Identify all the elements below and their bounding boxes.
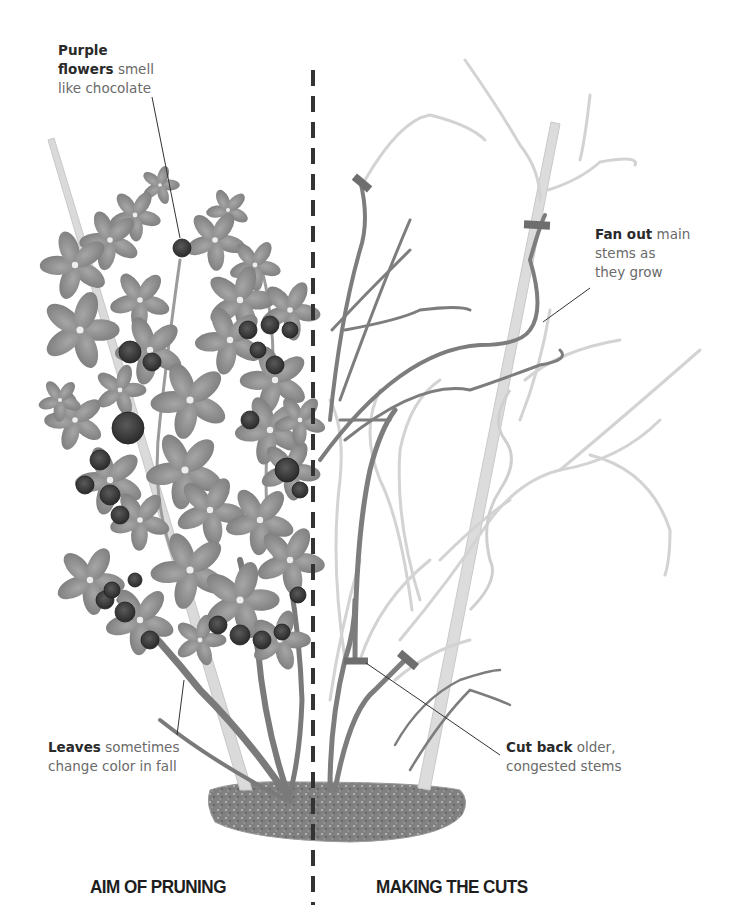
leaf-center (267, 427, 273, 433)
flower (141, 631, 159, 649)
cut-mark (524, 220, 550, 229)
cut-marks (344, 174, 550, 671)
leaf-center (287, 557, 293, 563)
leaf-center (76, 326, 83, 333)
leaf-center (137, 517, 143, 523)
leaf-center (147, 347, 153, 353)
cut-mark (344, 658, 368, 665)
flower (230, 625, 250, 645)
callout-cut-back: Cut back older, congested stems (506, 738, 621, 776)
callout-flowers-bold-2: flowers (58, 61, 114, 77)
callout-cut-back-bold: Cut back (506, 739, 572, 755)
flower (292, 482, 308, 498)
callout-fan-out-text-3: they grow (595, 264, 663, 280)
leaf-center (133, 213, 138, 218)
flower (76, 476, 94, 494)
flower (261, 316, 279, 334)
callout-fan-out-text-1: main (652, 226, 690, 242)
callout-flowers-text-2: smell (114, 61, 154, 77)
leaf-center (137, 617, 143, 623)
callout-fan-out: Fan out main stems as they grow (595, 225, 690, 282)
leaf-center (186, 566, 193, 573)
leaf-center (272, 377, 278, 383)
leaf-center (257, 517, 263, 523)
callout-leaves-text-1: sometimes (101, 739, 180, 755)
flower (266, 356, 284, 374)
leaf-center (58, 398, 62, 402)
callout-fan-out-bold: Fan out (595, 226, 652, 242)
leaf-center (87, 577, 93, 583)
pruning-illustration (0, 0, 738, 924)
leaf-center (253, 263, 258, 268)
flower (241, 411, 259, 429)
flower (100, 485, 120, 505)
flower (104, 582, 120, 598)
leaf-center (198, 638, 203, 643)
flower (290, 587, 306, 603)
leader-leaves (177, 680, 184, 735)
leaf-center (237, 297, 243, 303)
section-title-aim-of-pruning: AIM OF PRUNING (90, 876, 226, 898)
flower (128, 573, 142, 587)
leaf-center (298, 418, 303, 423)
leaf-center (72, 262, 78, 268)
callout-fan-out-text-2: stems as (595, 245, 655, 261)
flower (253, 631, 271, 649)
callout-flowers-text-3: like chocolate (58, 80, 151, 96)
leaf-center (118, 388, 123, 393)
new-stems (330, 60, 700, 700)
flower (115, 602, 135, 622)
leaf-center (72, 417, 78, 423)
callout-leaves-text-2: change color in fall (48, 758, 177, 774)
flower (239, 321, 257, 339)
flower (250, 342, 266, 358)
leaf-center (158, 183, 162, 187)
leaf-center (287, 307, 293, 313)
leaf-cluster (42, 289, 120, 371)
flower (112, 412, 144, 444)
flower (275, 458, 299, 482)
flower (274, 624, 290, 640)
flower (173, 239, 191, 257)
flower (143, 353, 161, 371)
flower (282, 322, 298, 338)
callout-cut-back-text-2: congested stems (506, 758, 621, 774)
section-title-making-the-cuts: MAKING THE CUTS (376, 876, 527, 898)
flower (111, 506, 129, 524)
flower (209, 616, 227, 634)
leaf-center (212, 237, 218, 243)
leaf-center (107, 477, 113, 483)
callout-flowers: Purple flowers smell like chocolate (58, 41, 154, 98)
callout-cut-back-text-1: older, (572, 739, 615, 755)
leaf-center (137, 297, 143, 303)
leaf-center (186, 396, 193, 403)
leaf-cluster (54, 544, 126, 616)
leaf-center (236, 596, 243, 603)
leaf-center (181, 466, 188, 473)
leaf-cluster (149, 359, 229, 441)
flower (119, 341, 141, 363)
leaf-center (107, 237, 113, 243)
leaf-center (226, 208, 230, 212)
leaf-center (227, 337, 233, 343)
callout-leaves-bold: Leaves (48, 739, 101, 755)
callout-leaves: Leaves sometimes change color in fall (48, 738, 179, 776)
leaf-center (207, 507, 213, 513)
callout-flowers-bold-1: Purple (58, 42, 108, 58)
leader-fan-out (543, 288, 590, 322)
flower (90, 450, 110, 470)
